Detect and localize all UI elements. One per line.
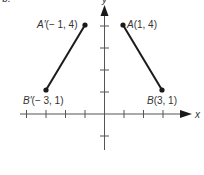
segment-ab xyxy=(120,22,164,92)
y-axis-arrow-icon xyxy=(101,5,109,16)
point-a-prime xyxy=(82,22,87,27)
x-axis-label: x xyxy=(194,109,201,120)
point-a xyxy=(120,22,125,27)
y-axis-label: y xyxy=(101,0,108,5)
label-point-a: A(1, 4) xyxy=(126,19,157,30)
x-axis-arrow-icon xyxy=(180,110,192,118)
label-point-b-prime: B′(− 3, 1) xyxy=(23,95,64,106)
label-point-b: B(3, 1) xyxy=(147,95,177,106)
y-axis: y xyxy=(100,0,109,150)
label-point-a-prime: A′(− 1, 4) xyxy=(36,19,78,30)
part-label: b. xyxy=(2,0,10,4)
coordinate-plane-figure: b. x y xyxy=(0,0,204,175)
x-axis: x xyxy=(20,109,201,120)
point-b xyxy=(159,87,164,92)
segment-a-prime-b-prime xyxy=(43,22,87,92)
point-b-prime xyxy=(43,87,48,92)
